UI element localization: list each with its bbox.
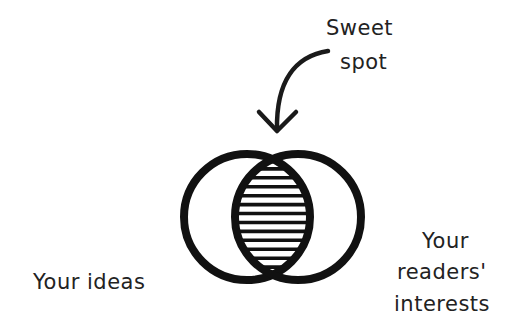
left-set-circle xyxy=(184,154,310,280)
right-set-label-line3: interests xyxy=(394,294,490,315)
sweet-spot-label-line2: spot xyxy=(340,52,387,73)
arrow-shaft xyxy=(277,51,328,130)
left-set-label: Your ideas xyxy=(33,272,145,293)
right-set-label-line1: Your xyxy=(422,231,469,252)
sweet-spot-label-line1: Sweet xyxy=(326,18,393,39)
right-set-label-line2: readers' xyxy=(397,262,487,283)
right-set-circle xyxy=(235,154,361,280)
